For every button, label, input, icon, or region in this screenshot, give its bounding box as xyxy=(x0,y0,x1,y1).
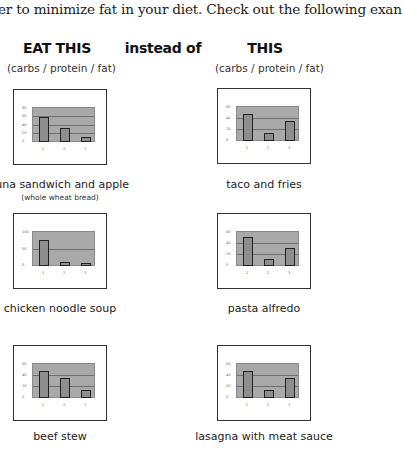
bar-2 xyxy=(60,378,70,398)
x-tick-label: 2 xyxy=(63,271,65,275)
x-tick-label: 2 xyxy=(267,146,269,150)
x-tick-label: 1 xyxy=(246,146,248,150)
plot-area xyxy=(236,231,299,266)
chart-pasta-alfredo: 0204060123 xyxy=(217,213,311,289)
bar-2 xyxy=(60,128,70,142)
eat-this-heading: EAT THIS xyxy=(7,40,107,56)
x-tick-label: 2 xyxy=(267,403,269,407)
bar-1 xyxy=(39,240,49,266)
bar-1 xyxy=(243,237,253,266)
chart-tuna-sandwich-and-apple: 020406080123 xyxy=(13,89,107,165)
this-heading: THIS xyxy=(215,40,315,56)
bar-3 xyxy=(81,390,91,398)
bar-2 xyxy=(264,259,274,266)
food-caption: pasta alfredo xyxy=(187,302,341,315)
x-tick-label: 1 xyxy=(246,271,248,275)
bar-3 xyxy=(81,263,91,266)
eat-this-subtitle: (carbs / protein / fat) xyxy=(7,62,107,74)
chart-lasagna-with-meat-sauce: 0204060123 xyxy=(217,345,311,421)
x-tick-label: 1 xyxy=(42,271,44,275)
plot-area xyxy=(32,363,95,398)
bar-1 xyxy=(243,114,253,142)
chart-chicken-noodle-soup: 050100123 xyxy=(13,213,107,289)
x-tick-label: 2 xyxy=(267,271,269,275)
food-caption: beef stew xyxy=(0,430,137,443)
plot-area xyxy=(32,107,95,142)
bar-2 xyxy=(60,262,70,266)
food-caption: taco and fries xyxy=(187,178,341,191)
food-caption: chicken noodle soup xyxy=(0,302,137,315)
x-tick-label: 3 xyxy=(84,403,86,407)
bar-3 xyxy=(285,378,295,398)
x-tick-label: 3 xyxy=(288,146,290,150)
x-tick-label: 1 xyxy=(42,147,44,151)
x-tick-label: 3 xyxy=(288,271,290,275)
x-tick-label: 2 xyxy=(63,403,65,407)
food-caption: tuna sandwich and apple xyxy=(0,178,137,191)
bar-1 xyxy=(39,117,49,142)
food-subcaption: (whole wheat bread) xyxy=(0,193,137,202)
intro-text: er to minimize fat in your diet. Check o… xyxy=(0,1,402,17)
bar-1 xyxy=(243,371,253,399)
food-caption: lasagna with meat sauce xyxy=(187,430,341,443)
x-tick-label: 2 xyxy=(63,147,65,151)
plot-area xyxy=(32,231,95,266)
instead-of-heading: instead of xyxy=(118,40,208,56)
chart-beef-stew: 0204060123 xyxy=(13,345,107,421)
x-tick-label: 3 xyxy=(288,403,290,407)
bar-3 xyxy=(81,137,91,142)
x-tick-label: 1 xyxy=(246,403,248,407)
x-tick-label: 3 xyxy=(84,271,86,275)
plot-area xyxy=(236,363,299,398)
x-tick-label: 3 xyxy=(84,147,86,151)
bar-3 xyxy=(285,248,295,266)
bar-3 xyxy=(285,121,295,141)
bar-2 xyxy=(264,133,274,141)
x-tick-label: 1 xyxy=(42,403,44,407)
bar-2 xyxy=(264,390,274,398)
plot-area xyxy=(236,106,299,141)
bar-1 xyxy=(39,371,49,399)
chart-taco-and-fries: 0204060123 xyxy=(217,88,311,164)
this-subtitle: (carbs / protein / fat) xyxy=(215,62,315,74)
